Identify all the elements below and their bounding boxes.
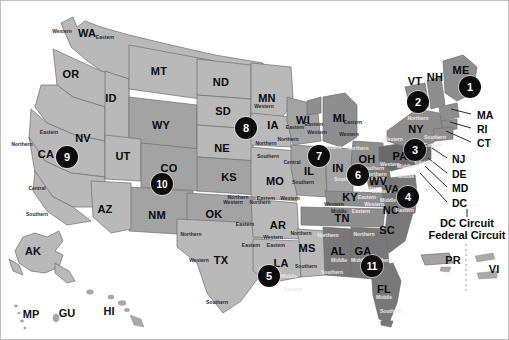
circuit-badge-6[interactable]: 6	[347, 164, 369, 186]
circuit-badge-5[interactable]: 5	[258, 265, 280, 287]
circuit-number: 1	[467, 81, 473, 93]
circuit-badge-3[interactable]: 3	[404, 139, 426, 161]
circuit-number: 11	[367, 261, 378, 272]
circuit-badge-11[interactable]: 11	[361, 255, 383, 277]
circuit-badge-layer: 1234567891011	[1, 1, 509, 340]
circuit-badge-7[interactable]: 7	[308, 145, 330, 167]
circuit-number: 9	[64, 151, 70, 163]
circuit-number: 4	[405, 191, 411, 203]
circuit-number: 8	[243, 122, 249, 134]
circuit-number: 3	[412, 144, 418, 156]
circuit-badge-1[interactable]: 1	[459, 76, 481, 98]
us-federal-courts-map: .s{stroke:#6e6e6e;stroke-width:.7;stroke…	[0, 0, 509, 340]
circuit-number: 7	[316, 150, 322, 162]
circuit-number: 2	[415, 96, 421, 108]
circuit-badge-4[interactable]: 4	[397, 186, 419, 208]
circuit-badge-2[interactable]: 2	[407, 91, 429, 113]
circuit-badge-9[interactable]: 9	[56, 146, 78, 168]
circuit-number: 6	[355, 169, 361, 181]
circuit-number: 10	[156, 179, 167, 190]
circuit-number: 5	[266, 270, 272, 282]
circuit-badge-8[interactable]: 8	[235, 117, 257, 139]
circuit-badge-10[interactable]: 10	[151, 173, 173, 195]
